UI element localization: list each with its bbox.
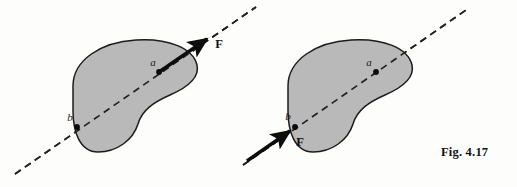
point-b-label: b (67, 111, 73, 123)
point-a-dot (373, 69, 379, 75)
point-b-label: b (285, 110, 291, 122)
point-a-label: a (366, 56, 372, 68)
figure-canvas: a b F a b F (0, 0, 517, 187)
figure-caption: Fig. 4.17 (441, 145, 488, 160)
right-panel: a b F (243, 10, 466, 165)
left-panel: a b F (15, 7, 256, 174)
line-of-action-overlay (15, 7, 256, 174)
point-b-dot (292, 124, 298, 130)
figure-4-17: a b F a b F Fig. 4.17 (0, 0, 517, 187)
force-vector-F (247, 131, 290, 161)
rigid-body-blob (288, 40, 412, 152)
point-a-dot (156, 69, 162, 75)
point-a-label: a (150, 56, 156, 68)
force-label-F: F (296, 135, 304, 149)
point-b-dot (74, 124, 80, 130)
force-label-F: F (215, 37, 223, 51)
